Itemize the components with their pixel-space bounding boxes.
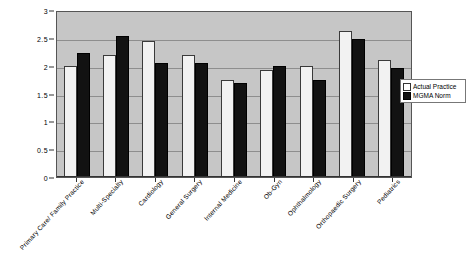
x-axis-tick-label: Multi-Specialty (89, 178, 124, 216)
bar-actual-practice (260, 70, 273, 177)
y-axis-tick-mark (49, 11, 54, 12)
legend-label-mgma-norm: MGMA Norm (413, 92, 451, 99)
bar-mgma-norm (77, 53, 90, 177)
bar-mgma-norm (195, 63, 208, 177)
x-axis-tick-label: Internal Medicine (203, 178, 244, 222)
y-axis-tick-mark (49, 94, 54, 95)
y-axis: 32.521.510.50 (0, 0, 56, 180)
legend-swatch-actual-practice-icon (403, 83, 411, 91)
x-axis-tick-label: Ob-Gyn (262, 178, 283, 200)
bar-chart: 32.521.510.50 Primary Care/ Family Pract… (0, 0, 469, 258)
x-axis-tick-label: Orthopaedic Surgery (314, 178, 362, 230)
x-axis-tick-label: Ophthalmology (286, 178, 322, 217)
bars-layer (57, 12, 411, 177)
bar-actual-practice (339, 31, 352, 177)
bar-group (332, 12, 371, 177)
y-axis-tick-label: 0.5 (37, 147, 48, 154)
bar-group (293, 12, 332, 177)
bar-actual-practice (142, 41, 155, 177)
bar-mgma-norm (116, 36, 129, 177)
y-axis-tick-label: 1.5 (37, 91, 48, 98)
bar-mgma-norm (352, 39, 365, 177)
bar-actual-practice (221, 80, 234, 177)
legend-swatch-mgma-norm-icon (403, 92, 411, 100)
y-axis-tick-label: 3 (44, 8, 48, 15)
bar-mgma-norm (234, 83, 247, 177)
legend-item-actual-practice: Actual Practice (403, 82, 463, 91)
bar-mgma-norm (273, 66, 286, 177)
bar-group (214, 12, 253, 177)
bar-group (175, 12, 214, 177)
legend-item-mgma-norm: MGMA Norm (403, 91, 463, 100)
bar-actual-practice (182, 55, 195, 177)
bar-actual-practice (378, 60, 391, 177)
x-axis-tick-label: Pediatrics (376, 178, 402, 205)
y-axis-tick-label: 2 (44, 63, 48, 70)
x-axis-tick-label: Primary Care/ Family Practice (18, 178, 85, 251)
y-axis-tick-mark (49, 150, 54, 151)
chart-legend: Actual Practice MGMA Norm (400, 79, 466, 103)
bar-group (254, 12, 293, 177)
y-axis-tick-mark (49, 66, 54, 67)
bar-actual-practice (64, 66, 77, 177)
bar-group (57, 12, 96, 177)
x-axis-tick-label: Cardiology (137, 178, 164, 207)
x-axis-labels: Primary Care/ Family PracticeMulti-Speci… (56, 178, 412, 258)
bar-mgma-norm (313, 80, 326, 177)
y-axis-tick-label: 2.5 (37, 35, 48, 42)
y-axis-tick-mark (49, 38, 54, 39)
bar-group (96, 12, 135, 177)
bar-actual-practice (103, 55, 116, 177)
y-axis-tick-mark (49, 178, 54, 179)
bar-actual-practice (300, 66, 313, 177)
y-axis-tick-label: 1 (44, 119, 48, 126)
x-axis-tick-label: General Surgery (165, 178, 204, 220)
y-axis-tick-mark (49, 122, 54, 123)
bar-group (136, 12, 175, 177)
y-axis-tick-label: 0 (44, 175, 48, 182)
x-axis-baseline (57, 176, 411, 177)
legend-label-actual-practice: Actual Practice (413, 83, 456, 90)
bar-mgma-norm (155, 63, 168, 177)
plot-area (56, 11, 412, 178)
